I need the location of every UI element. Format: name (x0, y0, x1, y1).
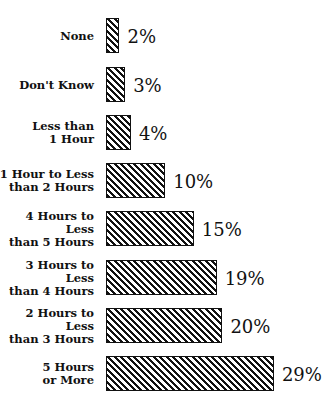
bar-row: 2 Hours to Less than 3 Hours 20% (0, 309, 336, 343)
horizontal-bar-chart: None 2% Don't Know 3% Less than 1 Hour 4… (0, 0, 336, 415)
value-label: 2% (127, 19, 156, 53)
bar (107, 261, 216, 294)
category-label: 3 Hours to Less than 4 Hours (0, 261, 94, 295)
bar-row: Less than 1 Hour 4% (0, 116, 336, 150)
bar-row: None 2% (0, 19, 336, 53)
value-label: 15% (202, 212, 242, 246)
category-label: 2 Hours to Less than 3 Hours (0, 309, 94, 343)
bar (107, 116, 130, 149)
bar-row: 3 Hours to Less than 4 Hours 19% (0, 261, 336, 295)
value-label: 3% (133, 68, 162, 102)
category-label: Don't Know (0, 68, 94, 102)
value-label: 29% (282, 357, 322, 391)
value-label: 19% (225, 261, 265, 295)
bar (107, 357, 273, 390)
category-label: 5 Hours or More (0, 357, 94, 391)
bar-row: 1 Hour to Less than 2 Hours 10% (0, 164, 336, 198)
bar (107, 164, 164, 197)
category-label: 4 Hours to Less than 5 Hours (0, 212, 94, 246)
bar (107, 19, 118, 52)
category-label: 1 Hour to Less than 2 Hours (0, 164, 94, 198)
value-label: 20% (230, 309, 270, 343)
bar (107, 68, 124, 101)
category-label: Less than 1 Hour (0, 116, 94, 150)
value-label: 10% (173, 164, 213, 198)
category-label: None (0, 19, 94, 53)
bar (107, 212, 193, 245)
bar-row: 4 Hours to Less than 5 Hours 15% (0, 212, 336, 246)
bar-row: 5 Hours or More 29% (0, 357, 336, 391)
bar-row: Don't Know 3% (0, 68, 336, 102)
bar (107, 309, 221, 342)
value-label: 4% (139, 116, 168, 150)
